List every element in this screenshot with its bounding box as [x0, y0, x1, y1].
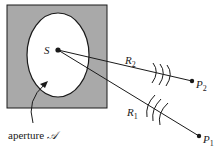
point-label-p2: P2 [195, 78, 207, 93]
source-point [55, 47, 60, 52]
observation-point-p2 [190, 79, 194, 83]
observation-point-p1 [197, 134, 201, 138]
ray-label-r1: R1 [126, 106, 138, 121]
aperture-label: aperture 𝒜 [8, 129, 61, 141]
diagram-canvas: S R2 R1 P2 P1 aperture 𝒜 [0, 0, 215, 155]
wavefronts-r1 [147, 95, 168, 125]
source-label: S [44, 44, 50, 56]
point-label-p1: P1 [202, 133, 214, 148]
wavefronts-r2 [152, 63, 170, 86]
